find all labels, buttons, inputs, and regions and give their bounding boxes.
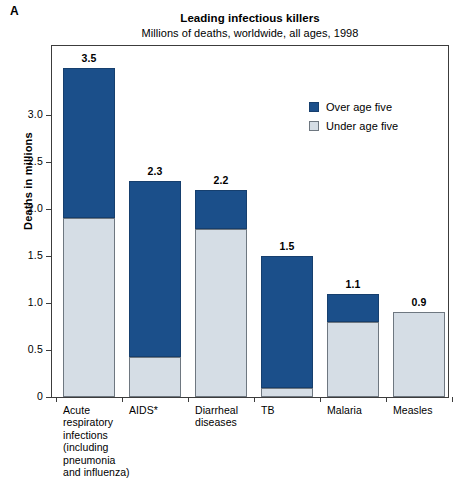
- y-tick-mark: [46, 209, 51, 210]
- bar-group[interactable]: 2.2: [195, 190, 247, 397]
- y-tick-label: 1.0: [28, 296, 43, 308]
- bar-segment-under-age-five[interactable]: [261, 388, 313, 397]
- bar-segment-under-age-five[interactable]: [129, 357, 181, 397]
- bar-segment-over-age-five[interactable]: [261, 256, 313, 388]
- x-axis-category-line: respiratory: [63, 416, 137, 428]
- legend-swatch-under-icon: [309, 121, 319, 131]
- x-axis-category-line: Diarrheal: [195, 404, 269, 416]
- x-axis-category-line: diseases: [195, 416, 269, 428]
- y-tick-mark: [46, 397, 51, 398]
- x-axis-category-line: Malaria: [327, 404, 401, 416]
- bar-group[interactable]: 2.3: [129, 181, 181, 397]
- legend-label: Over age five: [326, 101, 392, 113]
- y-tick-label: 3.0: [28, 108, 43, 120]
- y-axis-title: Deaths in millions: [22, 101, 34, 261]
- y-tick-label: 1.5: [28, 249, 43, 261]
- x-tick-mark: [122, 397, 123, 402]
- bar-value-label: 3.5: [51, 52, 127, 64]
- x-tick-mark: [320, 397, 321, 402]
- bar-segment-over-age-five[interactable]: [129, 181, 181, 357]
- bar-value-label: 2.2: [183, 174, 259, 186]
- y-tick-mark: [46, 303, 51, 304]
- x-axis-category-label: AIDS*: [129, 404, 203, 416]
- x-tick-mark: [452, 397, 453, 402]
- x-axis-category-line: Measles: [393, 404, 464, 416]
- y-tick-label: 0.5: [28, 343, 43, 355]
- y-tick-mark: [46, 115, 51, 116]
- x-axis-category-line: (including: [63, 441, 137, 453]
- x-axis-category-line: TB: [261, 404, 335, 416]
- y-tick-mark: [46, 256, 51, 257]
- bar-group[interactable]: 3.5: [63, 68, 115, 397]
- bar-segment-over-age-five[interactable]: [195, 190, 247, 229]
- chart-subtitle: Millions of deaths, worldwide, all ages,…: [51, 27, 449, 39]
- x-tick-mark: [254, 397, 255, 402]
- legend-label: Under age five: [326, 120, 398, 132]
- x-axis-category-label: TB: [261, 404, 335, 416]
- y-tick-mark: [46, 162, 51, 163]
- plot-frame: 3.52.32.21.51.10.9: [51, 45, 449, 398]
- x-tick-mark: [386, 397, 387, 402]
- legend-item[interactable]: Under age five: [309, 118, 398, 134]
- y-tick-label: 2.5: [28, 155, 43, 167]
- x-axis-category-line: and influenza): [63, 466, 137, 478]
- bar-value-label: 0.9: [381, 296, 457, 308]
- x-axis-category-label: Malaria: [327, 404, 401, 416]
- panel-label: A: [10, 4, 19, 18]
- bar-group[interactable]: 0.9: [393, 312, 445, 397]
- bar-value-label: 1.1: [315, 278, 391, 290]
- x-tick-mark: [188, 397, 189, 402]
- chart-legend: Over age fiveUnder age five: [309, 99, 398, 137]
- bar-segment-over-age-five[interactable]: [327, 294, 379, 322]
- x-axis-category-line: Acute: [63, 404, 137, 416]
- x-axis-category-line: pneumonia: [63, 454, 137, 466]
- x-tick-mark: [56, 397, 57, 402]
- bar-group[interactable]: 1.5: [261, 256, 313, 397]
- x-axis-category-label: Measles: [393, 404, 464, 416]
- bar-value-label: 1.5: [249, 240, 325, 252]
- bar-group[interactable]: 1.1: [327, 294, 379, 397]
- bar-segment-under-age-five[interactable]: [195, 229, 247, 397]
- chart-title: Leading infectious killers: [51, 12, 449, 24]
- legend-swatch-over-icon: [309, 102, 319, 112]
- bar-segment-under-age-five[interactable]: [63, 218, 115, 397]
- bar-segment-under-age-five[interactable]: [327, 322, 379, 397]
- x-axis-category-line: infections: [63, 429, 137, 441]
- bar-value-label: 2.3: [117, 165, 193, 177]
- bar-segment-over-age-five[interactable]: [63, 68, 115, 218]
- bar-segment-under-age-five[interactable]: [393, 312, 445, 397]
- y-tick-mark: [46, 350, 51, 351]
- y-tick-label: 0: [37, 390, 43, 402]
- x-axis-category-line: AIDS*: [129, 404, 203, 416]
- y-tick-label: 2.0: [28, 202, 43, 214]
- x-axis-category-label: Acuterespiratoryinfections(includingpneu…: [63, 404, 137, 478]
- x-axis-category-label: Diarrhealdiseases: [195, 404, 269, 429]
- legend-item[interactable]: Over age five: [309, 99, 398, 115]
